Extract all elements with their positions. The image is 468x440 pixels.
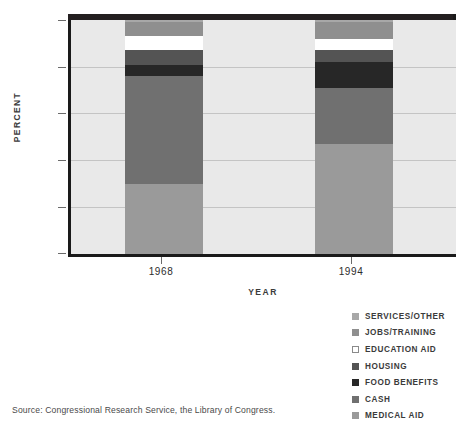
bar-1968-segment-housing: [125, 50, 203, 64]
legend-item-jobs-training: JOBS/TRAINING: [352, 325, 468, 342]
bar-1968: [125, 20, 203, 254]
y-tick-mark-20: [58, 207, 66, 208]
x-tick-mark-1968: [161, 257, 162, 264]
bar-1994-segment-jobs-training: [315, 22, 393, 38]
legend-item-services-other: SERVICES/OTHER: [352, 308, 468, 325]
bar-1968-segment-food-benefits: [125, 65, 203, 77]
legend-item-cash: CASH: [352, 391, 468, 408]
bar-1994-segment-cash: [315, 88, 393, 144]
legend-swatch-icon-cash: [352, 396, 359, 403]
legend-swatch-icon-education-aid: [352, 346, 359, 353]
chart-legend: SERVICES/OTHER JOBS/TRAINING EDUCATION A…: [352, 308, 468, 424]
legend-label-education-aid: EDUCATION AID: [365, 345, 436, 354]
bar-1994-segment-food-benefits: [315, 62, 393, 88]
y-tick-mark-80: [58, 67, 66, 68]
x-tick-mark-1994: [351, 257, 352, 264]
y-tick-mark-0: [58, 253, 66, 254]
legend-item-food-benefits: FOOD BENEFITS: [352, 374, 468, 391]
bar-1994-segment-medical-aid: [315, 144, 393, 254]
legend-label-services-other: SERVICES/OTHER: [365, 312, 445, 321]
legend-item-education-aid: EDUCATION AID: [352, 341, 468, 358]
bar-1968-segment-jobs-training: [125, 22, 203, 36]
legend-item-housing: HOUSING: [352, 358, 468, 375]
legend-swatch-icon-medical-aid: [352, 412, 359, 419]
legend-item-medical-aid: MEDICAL AID: [352, 408, 468, 425]
legend-label-jobs-training: JOBS/TRAINING: [365, 328, 436, 337]
chart-plot-area: [68, 20, 456, 257]
y-tick-mark-60: [58, 113, 66, 114]
legend-label-food-benefits: FOOD BENEFITS: [365, 378, 439, 387]
y-axis-title: PERCENT: [12, 72, 22, 162]
legend-label-medical-aid: MEDICAL AID: [365, 411, 424, 420]
y-tick-mark-100: [58, 20, 66, 21]
legend-label-cash: CASH: [365, 395, 390, 404]
x-tick-label-1968: 1968: [121, 266, 201, 277]
legend-label-housing: HOUSING: [365, 362, 407, 371]
source-note: Source: Congressional Research Service, …: [12, 405, 275, 415]
legend-swatch-icon-housing: [352, 363, 359, 370]
bar-1968-segment-cash: [125, 76, 203, 184]
x-tick-label-1994: 1994: [311, 266, 391, 277]
y-tick-mark-40: [58, 160, 66, 161]
bar-1994: [315, 20, 393, 254]
bar-1994-segment-housing: [315, 50, 393, 62]
bar-1994-segment-education-aid: [315, 39, 393, 51]
bar-1968-segment-education-aid: [125, 36, 203, 50]
x-axis-title: YEAR: [188, 287, 338, 297]
legend-swatch-icon-services-other: [352, 313, 359, 320]
legend-swatch-icon-jobs-training: [352, 329, 359, 336]
legend-swatch-icon-food-benefits: [352, 379, 359, 386]
bar-1968-segment-medical-aid: [125, 184, 203, 254]
